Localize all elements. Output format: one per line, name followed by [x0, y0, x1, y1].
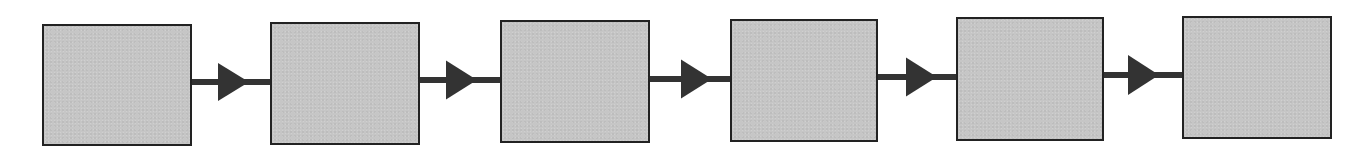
process-box-label [732, 21, 876, 140]
flow-arrow [878, 58, 956, 97]
process-box [730, 19, 878, 142]
process-box [956, 17, 1104, 141]
arrowhead-icon [681, 60, 712, 99]
process-box [500, 20, 650, 143]
flow-diagram [0, 0, 1362, 152]
arrowhead-icon [446, 61, 477, 100]
flow-arrow [420, 61, 500, 100]
arrowhead-icon [218, 63, 249, 101]
process-box-label [958, 19, 1102, 139]
connector-layer [0, 0, 1362, 152]
process-box [270, 22, 420, 145]
process-box-label [272, 24, 418, 143]
flow-arrow [650, 60, 730, 99]
arrowhead-icon [1128, 55, 1159, 95]
flow-arrow [1104, 55, 1182, 95]
arrowhead-icon [906, 58, 937, 97]
process-box [42, 24, 192, 146]
process-box-label [1184, 18, 1330, 137]
process-box [1182, 16, 1332, 139]
process-box-label [44, 26, 190, 144]
flow-arrow [192, 63, 270, 101]
process-box-label [502, 22, 648, 141]
